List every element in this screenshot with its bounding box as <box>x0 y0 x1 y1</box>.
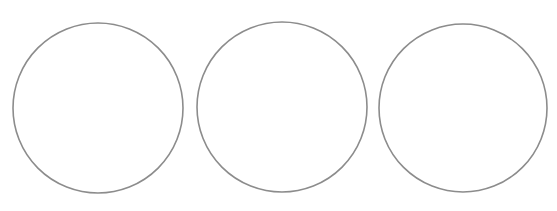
circle-3 <box>379 24 547 192</box>
circles-diagram <box>0 0 557 211</box>
circle-1 <box>13 23 183 193</box>
circle-2 <box>197 22 367 192</box>
